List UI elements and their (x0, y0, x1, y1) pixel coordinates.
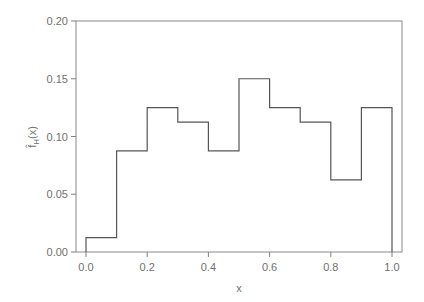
y-axis-label: f̂H(x) (25, 126, 41, 148)
x-tick-label: 0.0 (78, 261, 93, 273)
histogram-step-line (86, 79, 392, 252)
x-axis-label: x (236, 282, 242, 294)
y-tick-label: 0.20 (47, 15, 68, 27)
y-tick-label: 0.00 (47, 246, 68, 258)
y-tick-label: 0.15 (47, 73, 68, 85)
y-tick-label: 0.05 (47, 188, 68, 200)
x-tick-label: 0.2 (140, 261, 155, 273)
y-axis: 0.000.050.100.150.20 (47, 15, 76, 258)
x-tick-label: 0.8 (323, 261, 338, 273)
x-tick-label: 0.6 (262, 261, 277, 273)
svg-text:f̂H(x): f̂H(x) (25, 126, 41, 148)
x-tick-label: 0.4 (201, 261, 216, 273)
x-axis: 0.00.20.40.60.81.0 (78, 252, 399, 273)
histogram-chart: 0.000.050.100.150.20 0.00.20.40.60.81.0 … (0, 0, 424, 302)
y-tick-label: 0.10 (47, 131, 68, 143)
x-tick-label: 1.0 (384, 261, 399, 273)
